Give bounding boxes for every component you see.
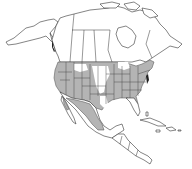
hispaniola	[166, 127, 176, 131]
cuba	[140, 118, 166, 126]
arctic-island-2	[124, 2, 140, 10]
florida	[126, 98, 140, 116]
arctic-island-1	[100, 2, 120, 8]
alaska	[6, 19, 58, 45]
jamaica	[156, 130, 160, 132]
central-america	[112, 134, 152, 164]
bahamas	[146, 112, 148, 116]
north-america-map	[0, 0, 192, 169]
puerto-rico	[178, 130, 181, 131]
range-map	[0, 0, 192, 169]
